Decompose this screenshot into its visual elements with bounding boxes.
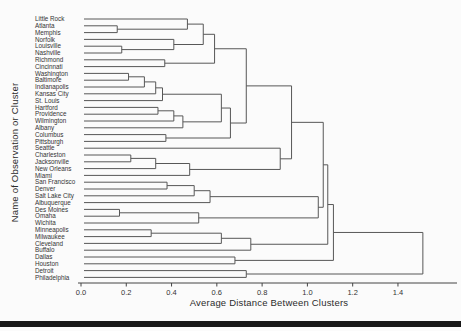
cluster-merge	[84, 213, 199, 223]
cluster-merge	[84, 191, 210, 203]
dendrogram-figure: Little RockAtlantaMemphisNorfolkLouisvil…	[0, 0, 461, 331]
cluster-merge	[246, 232, 423, 274]
cluster-merge	[84, 158, 156, 168]
cluster-merge	[84, 111, 174, 121]
x-axis-title: Average Distance Between Clusters	[81, 297, 457, 308]
cluster-merge	[84, 155, 131, 162]
x-tick-label: 1.0	[302, 288, 312, 297]
cluster-merge	[84, 39, 174, 49]
leaf-label: Philadelphia	[35, 274, 70, 282]
cluster-merge	[84, 186, 194, 196]
cluster-merge	[199, 197, 319, 218]
cluster-merge	[251, 165, 328, 244]
x-tick-label: 1.2	[347, 288, 357, 297]
cluster-merge	[84, 182, 167, 189]
cluster-merge	[84, 60, 165, 67]
x-tick-label: 0.0	[76, 288, 86, 297]
cluster-merge	[84, 238, 251, 250]
cluster-merge	[174, 24, 203, 44]
cluster-merge	[84, 77, 144, 87]
x-tick-label: 1.4	[393, 288, 403, 297]
cluster-merge	[84, 164, 190, 176]
cluster-merge	[84, 148, 280, 169]
x-tick-label: 0.6	[212, 288, 222, 297]
cluster-merge	[165, 34, 215, 63]
cluster-merge	[84, 73, 129, 80]
x-tick-label: 0.4	[166, 288, 176, 297]
cluster-merge	[163, 94, 222, 122]
cluster-merge	[84, 230, 151, 237]
cluster-merge	[84, 26, 117, 33]
y-axis-title: Name of Observation or Cluster	[9, 8, 20, 298]
cluster-merge	[166, 108, 231, 138]
cluster-merge	[84, 46, 122, 53]
bottom-rule	[0, 321, 461, 327]
dendrogram-plot: Little RockAtlantaMemphisNorfolkLouisvil…	[0, 0, 461, 331]
cluster-merge	[84, 271, 246, 278]
cluster-merge	[84, 19, 187, 29]
cluster-merge	[84, 233, 221, 243]
cluster-merge	[84, 135, 166, 142]
cluster-merge	[292, 122, 324, 207]
x-tick-label: 0.2	[121, 288, 131, 297]
cluster-merge	[84, 82, 156, 94]
cluster-merge	[84, 209, 119, 216]
x-tick-label: 0.8	[257, 288, 267, 297]
cluster-merge	[84, 257, 235, 264]
cluster-merge	[84, 116, 183, 128]
cluster-merge	[84, 107, 158, 114]
